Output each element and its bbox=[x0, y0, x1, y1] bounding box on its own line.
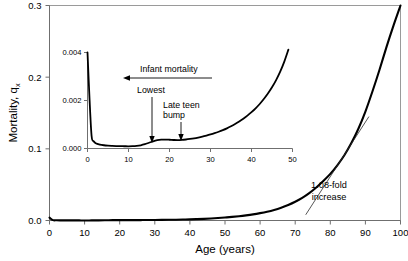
y-tick-label: 0.3 bbox=[28, 0, 41, 11]
mortality-curve-figure: 0102030405060708090100 0.00.10.20.3 1.08… bbox=[0, 0, 408, 261]
x-axis-tick-labels: 0102030405060708090100 bbox=[47, 227, 408, 238]
y-axis-tick-labels: 0.00.10.20.3 bbox=[28, 0, 41, 226]
y-axis-title-text: Mortality, q bbox=[7, 87, 19, 142]
inset-x-tick-label: 0 bbox=[85, 155, 89, 164]
infant-mortality-label: Infant mortality bbox=[140, 64, 198, 74]
inset-y-axis-tick-labels: 0.0000.0020.004 bbox=[62, 48, 81, 153]
inset-x-tick-label: 40 bbox=[247, 155, 255, 164]
x-tick-label: 10 bbox=[79, 227, 90, 238]
inset-x-tick-label: 20 bbox=[165, 155, 173, 164]
plot-frame bbox=[50, 6, 401, 221]
infant-mortality-arrow-head bbox=[123, 75, 130, 81]
y-axis-title-subscript: x bbox=[13, 83, 22, 87]
lowest-label: Lowest bbox=[137, 85, 165, 95]
late-teen-bump-label-line2: bump bbox=[163, 110, 185, 120]
inset-y-tick-label: 0.000 bbox=[62, 144, 81, 153]
x-tick-label: 70 bbox=[290, 227, 301, 238]
inset-plot: 01020304050 0.0000.0020.004 Infant morta… bbox=[62, 48, 296, 163]
x-tick-label: 80 bbox=[325, 227, 336, 238]
y-tick-label: 0.1 bbox=[28, 143, 41, 154]
inset-x-tick-label: 50 bbox=[288, 155, 296, 164]
x-tick-label: 0 bbox=[47, 227, 52, 238]
y-axis-title: Mortality, qx bbox=[7, 83, 22, 142]
inset-y-tick-label: 0.002 bbox=[62, 96, 81, 105]
inset-x-axis-ticks bbox=[88, 149, 293, 153]
y-tick-label: 0.2 bbox=[28, 72, 41, 83]
x-axis-title: Age (years) bbox=[195, 243, 255, 255]
x-tick-label: 30 bbox=[150, 227, 161, 238]
inset-y-tick-label: 0.004 bbox=[62, 48, 81, 57]
y-axis-ticks bbox=[46, 6, 50, 221]
inset-x-axis-tick-labels: 01020304050 bbox=[85, 155, 296, 164]
x-tick-label: 40 bbox=[185, 227, 196, 238]
main-axes: 0102030405060708090100 0.00.10.20.3 bbox=[28, 0, 408, 238]
x-tick-label: 100 bbox=[393, 227, 408, 238]
x-tick-label: 20 bbox=[114, 227, 125, 238]
chart-canvas: 0102030405060708090100 0.00.10.20.3 1.08… bbox=[0, 0, 408, 261]
x-tick-label: 60 bbox=[255, 227, 266, 238]
inset-x-tick-label: 10 bbox=[124, 155, 132, 164]
fold-increase-label-line1: 1.08-fold bbox=[311, 180, 347, 190]
x-tick-label: 50 bbox=[220, 227, 231, 238]
mortality-curve bbox=[50, 6, 401, 221]
inset-x-tick-label: 30 bbox=[206, 155, 214, 164]
fold-increase-label-line2: increase bbox=[312, 192, 347, 202]
late-teen-bump-label-line1: Late teen bbox=[163, 100, 200, 110]
inset-y-axis-ticks bbox=[84, 53, 88, 149]
y-tick-label: 0.0 bbox=[28, 215, 41, 226]
x-tick-label: 90 bbox=[360, 227, 371, 238]
